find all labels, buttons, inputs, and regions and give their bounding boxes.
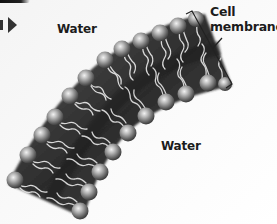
diagram-canvas: Water Water Cell membrane — [0, 0, 277, 224]
cell-membrane-label-line2: membrane — [210, 19, 277, 34]
cell-membrane-label-line1: Cell — [210, 4, 277, 19]
cell-membrane-label: Cell membrane — [210, 4, 277, 34]
water-label-outside: Water — [57, 22, 97, 36]
water-label-inside: Water — [161, 139, 201, 153]
